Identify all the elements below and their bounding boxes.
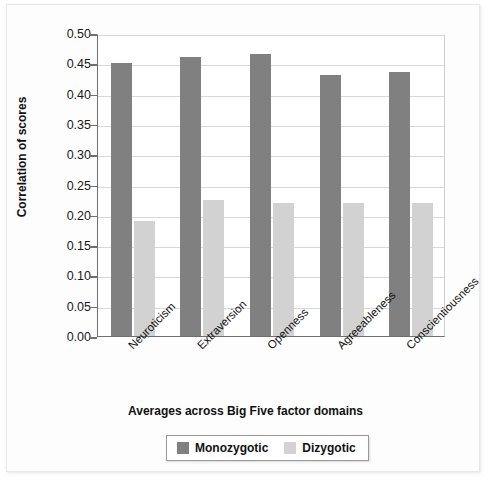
gridline <box>98 35 444 36</box>
legend-swatch-icon <box>177 442 189 454</box>
legend-swatch-icon <box>284 442 296 454</box>
figure: 0.000.050.100.150.200.250.300.350.400.45… <box>0 0 491 481</box>
y-axis-tick-mark <box>90 34 97 36</box>
legend-entry-dizygotic[interactable]: Dizygotic <box>284 441 355 455</box>
bar-monozygotic-openness <box>250 54 271 336</box>
y-axis-tick-label: 0.35 <box>47 118 91 132</box>
legend: MonozygoticDizygotic <box>166 435 369 461</box>
y-axis-tick-label: 0.10 <box>47 269 91 283</box>
legend-label: Monozygotic <box>195 441 268 455</box>
gridline <box>98 65 444 66</box>
y-axis-tick-label: 0.45 <box>47 57 91 71</box>
bar-monozygotic-agreeableness <box>320 75 341 336</box>
y-axis-tick-mark <box>90 125 97 127</box>
y-axis-tick-label: 0.00 <box>47 330 91 344</box>
y-axis-tick-mark <box>90 95 97 97</box>
y-axis-tick-mark <box>90 64 97 66</box>
y-axis-tick-mark <box>90 246 97 248</box>
y-axis-tick-mark <box>90 186 97 188</box>
bar-monozygotic-extraversion <box>180 57 201 336</box>
y-axis-tick-label: 0.25 <box>47 179 91 193</box>
y-axis-tick-label: 0.05 <box>47 300 91 314</box>
legend-label: Dizygotic <box>302 441 355 455</box>
y-axis-tick-mark <box>90 155 97 157</box>
y-axis-tick-mark <box>90 337 97 339</box>
x-axis-title: Averages across Big Five factor domains <box>0 404 491 418</box>
y-axis-tick-label: 0.15 <box>47 239 91 253</box>
legend-entry-monozygotic[interactable]: Monozygotic <box>177 441 268 455</box>
y-axis-tick-label: 0.50 <box>47 27 91 41</box>
y-axis-title: Correlation of scores <box>15 67 29 247</box>
y-axis-tick-mark <box>90 216 97 218</box>
y-axis-tick-label: 0.20 <box>47 209 91 223</box>
y-axis-tick-label: 0.40 <box>47 88 91 102</box>
y-axis-tick-mark <box>90 276 97 278</box>
y-axis-tick-label: 0.30 <box>47 148 91 162</box>
y-axis-tick-mark <box>90 307 97 309</box>
bar-monozygotic-neuroticism <box>111 63 132 336</box>
